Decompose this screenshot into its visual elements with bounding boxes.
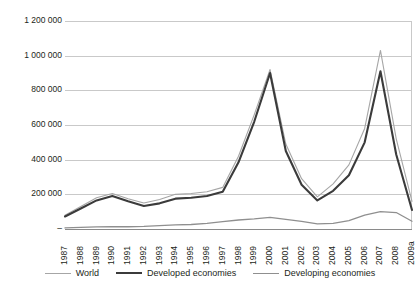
x-axis-tick-label: 1990: [107, 246, 116, 265]
chart-container: 1 200 0001 000 000800 000600 000400 0002…: [0, 0, 420, 292]
x-axis-baseline: [65, 229, 412, 230]
x-axis-tick-label: 2003: [312, 246, 321, 265]
series-line-developing-economies: [65, 212, 412, 228]
y-axis-tick-label: 1 200 000: [24, 16, 62, 25]
x-axis-tick-label: 2008: [391, 246, 400, 265]
x-axis-tick-label: 1994: [170, 246, 179, 265]
x-axis-tick-label: 1996: [202, 246, 211, 265]
x-axis-tick-label: 2007: [375, 246, 384, 265]
legend-label: World: [76, 268, 99, 278]
x-axis-tick-label: 2000: [265, 246, 274, 265]
x-axis-tick-label: 1989: [92, 246, 101, 265]
x-axis-tick-label: 2001: [281, 246, 290, 265]
x-axis-tick-label: 2002: [297, 246, 306, 265]
legend-line-swatch-icon: [116, 272, 142, 274]
x-axis-tick-label: 2006: [360, 246, 369, 265]
y-axis-tick-label: 600 000: [31, 120, 62, 129]
x-axis-tick-label: 1993: [155, 246, 164, 265]
x-axis-tick-label: 1995: [186, 246, 195, 265]
chart-legend: WorldDeveloped economiesDeveloping econo…: [0, 268, 420, 278]
legend-label: Developing economies: [284, 268, 375, 278]
legend-item-developing-economies[interactable]: Developing economies: [253, 268, 375, 278]
legend-line-swatch-icon: [45, 273, 71, 274]
y-axis-tick-label: 200 000: [31, 189, 62, 198]
y-axis-tick-label: 400 000: [31, 155, 62, 164]
x-axis-tick-label: 1987: [60, 246, 69, 265]
x-axis-tick-label: 2009a: [407, 241, 416, 265]
x-axis-tick-label: 2004: [328, 246, 337, 265]
x-axis-tick-label: 1992: [139, 246, 148, 265]
x-axis-tick-label: 2005: [344, 246, 353, 265]
x-axis-tick-labels: 1987198819891990199119921993199419951996…: [65, 231, 412, 265]
x-axis-tick-label: 1998: [234, 246, 243, 265]
y-axis-tick-label: –: [57, 224, 62, 233]
legend-label: Developed economies: [147, 268, 236, 278]
x-axis-tick-label: 1988: [76, 246, 85, 265]
chart-series-layer: [65, 21, 412, 229]
series-line-world: [65, 50, 412, 215]
y-axis-tick-label: 1 000 000: [24, 51, 62, 60]
x-axis-tick-label: 1999: [249, 246, 258, 265]
x-axis-tick-label: 1991: [123, 246, 132, 265]
x-axis-tick-label: 1997: [218, 246, 227, 265]
legend-item-world[interactable]: World: [45, 268, 99, 278]
legend-line-swatch-icon: [253, 273, 279, 274]
legend-item-developed-economies[interactable]: Developed economies: [116, 268, 236, 278]
y-axis-tick-label: 800 000: [31, 85, 62, 94]
